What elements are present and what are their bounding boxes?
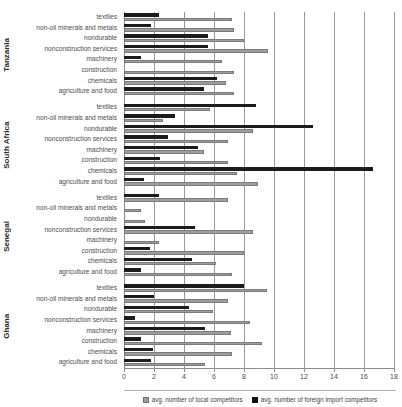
legend-item-foreign: avg. number of foreign import competitor… (252, 396, 378, 403)
category-label: nonconstruction services (0, 225, 120, 236)
gridline-18 (394, 12, 395, 369)
bar-foreign (124, 157, 160, 160)
bar-local (124, 18, 232, 21)
x-tick-label: 14 (330, 373, 338, 380)
plot-area (124, 12, 394, 369)
bar-local (124, 363, 205, 366)
category-label: nondurable (0, 214, 120, 225)
x-tick-mark (154, 369, 155, 372)
bar-row (124, 336, 394, 347)
category-label: nondurable (0, 304, 120, 315)
bar-foreign (124, 146, 198, 149)
bar-row (124, 124, 394, 135)
chart-legend: avg. number of local competitors avg. nu… (124, 390, 396, 406)
category-label: nonconstruction services (0, 44, 120, 55)
x-tick-label: 12 (300, 373, 308, 380)
bar-row (124, 113, 394, 124)
bar-local (124, 182, 258, 185)
bar-local (124, 342, 262, 345)
bar-chart: Tanzaniatextilesnon-oil minerals and met… (0, 0, 402, 407)
bar-local (124, 321, 250, 324)
bar-local (124, 352, 232, 355)
category-label: nondurable (0, 33, 120, 44)
bar-row (124, 304, 394, 315)
label-group-senegal: textilesnon-oil minerals and metalsnondu… (0, 193, 120, 278)
category-label: textiles (0, 283, 120, 294)
bar-foreign (124, 284, 244, 287)
bar-row (124, 246, 394, 257)
bar-row (124, 145, 394, 156)
category-label: construction (0, 65, 120, 76)
bar-row (124, 225, 394, 236)
bar-group-ghana (124, 283, 394, 368)
label-group-south-africa: textilesnon-oil minerals and metalsnondu… (0, 102, 120, 187)
bar-local (124, 140, 228, 143)
x-tick-label: 0 (122, 373, 126, 380)
bar-foreign (124, 125, 313, 128)
bar-group-tanzania (124, 12, 394, 97)
bar-local (124, 289, 267, 292)
bar-foreign (124, 135, 168, 138)
x-tick-mark (244, 369, 245, 372)
category-label: non-oil minerals and metals (0, 294, 120, 305)
x-tick-mark (334, 369, 335, 372)
bar-local (124, 28, 234, 31)
bar-foreign (124, 114, 175, 117)
category-label: machinery (0, 145, 120, 156)
bar-row (124, 76, 394, 87)
bar-local (124, 49, 268, 52)
bar-foreign (124, 13, 159, 16)
category-label: chemicals (0, 166, 120, 177)
bar-local (124, 92, 234, 95)
bar-row (124, 33, 394, 44)
bar-row (124, 155, 394, 166)
x-axis-ticks: 024681012141618 (124, 369, 394, 383)
bar-row (124, 23, 394, 34)
category-label: machinery (0, 235, 120, 246)
bar-foreign (124, 327, 205, 330)
x-tick-label: 6 (212, 373, 216, 380)
category-label: non-oil minerals and metals (0, 113, 120, 124)
bar-row (124, 315, 394, 326)
x-tick-mark (214, 369, 215, 372)
bar-foreign (124, 178, 144, 181)
bar-local (124, 39, 244, 42)
x-tick-label: 18 (390, 373, 398, 380)
category-label: textiles (0, 12, 120, 23)
bar-row (124, 166, 394, 177)
bar-group-south-africa (124, 102, 394, 187)
bar-local (124, 161, 228, 164)
bar-foreign (124, 359, 151, 362)
bar-row (124, 294, 394, 305)
x-tick-mark (304, 369, 305, 372)
bar-row (124, 267, 394, 278)
category-label: construction (0, 336, 120, 347)
bar-foreign (124, 87, 204, 90)
x-tick-label: 4 (182, 373, 186, 380)
x-tick-mark (274, 369, 275, 372)
bar-foreign (124, 295, 154, 298)
bar-row (124, 357, 394, 368)
category-label: agriculture and food (0, 357, 120, 368)
category-label: nonconstruction services (0, 315, 120, 326)
bar-row (124, 65, 394, 76)
x-tick-label: 16 (360, 373, 368, 380)
bar-row (124, 214, 394, 225)
bar-row (124, 235, 394, 246)
legend-swatch-local-icon (143, 397, 149, 403)
category-label: agriculture and food (0, 177, 120, 188)
bar-foreign (124, 247, 150, 250)
bar-foreign (124, 337, 141, 340)
bar-row (124, 347, 394, 358)
bar-foreign (124, 167, 373, 170)
category-label: agriculture and food (0, 86, 120, 97)
category-label: textiles (0, 193, 120, 204)
bar-local (124, 331, 231, 334)
bar-foreign (124, 316, 135, 319)
bar-local (124, 198, 228, 201)
bar-row (124, 203, 394, 214)
bar-row (124, 12, 394, 23)
x-tick-mark (364, 369, 365, 372)
category-label: nondurable (0, 124, 120, 135)
label-group-ghana: textilesnon-oil minerals and metalsnondu… (0, 283, 120, 368)
